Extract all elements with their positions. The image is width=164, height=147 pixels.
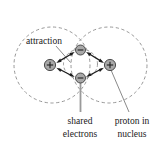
left-proton bbox=[44, 59, 55, 70]
shared-electrons-label-line2: electrons bbox=[63, 129, 98, 139]
top-electron bbox=[76, 45, 86, 55]
proton-nucleus-label-line1: proton in bbox=[115, 116, 150, 126]
attraction-label: attraction bbox=[26, 36, 62, 46]
attraction-leader-line bbox=[56, 46, 71, 63]
covalent-bond-diagram: attraction shared electrons proton in nu… bbox=[0, 0, 164, 147]
arrow-right-proton-top-electron bbox=[86, 52, 104, 63]
shared-electrons-label-line1: shared bbox=[68, 116, 93, 126]
proton-nucleus-leader-line bbox=[111, 70, 129, 112]
proton-nucleus-label-line2: nucleus bbox=[117, 129, 146, 139]
labels-group: attraction shared electrons proton in nu… bbox=[26, 36, 149, 139]
particles-group bbox=[44, 45, 115, 83]
arrow-right-proton-bottom-electron bbox=[86, 68, 104, 77]
diagram-canvas: attraction shared electrons proton in nu… bbox=[0, 0, 164, 147]
arrow-left-proton-top-electron bbox=[56, 52, 74, 63]
right-proton bbox=[104, 59, 115, 70]
bottom-electron bbox=[76, 73, 86, 83]
